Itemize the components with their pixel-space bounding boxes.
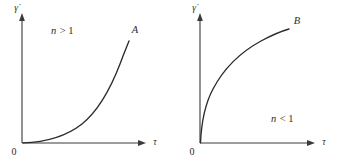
- y-axis-arrowhead-left: [19, 13, 25, 21]
- condition-variable-right: n: [271, 113, 276, 124]
- origin-label-right: 0: [190, 146, 195, 157]
- figure-root: γ̇ τ 0 A n> 1 γ̇ τ: [0, 0, 338, 165]
- plot-panel-right: γ̇ τ 0 B n< 1: [169, 0, 338, 165]
- y-axis-arrowhead-right: [197, 13, 203, 21]
- condition-variable-left: n: [51, 25, 56, 36]
- x-axis-label-right: τ: [322, 137, 326, 147]
- plot-panel-left: γ̇ τ 0 A n> 1: [0, 0, 169, 165]
- curve-A-path: [23, 41, 129, 143]
- condition-label-right: n< 1: [271, 113, 294, 124]
- origin-label-left: 0: [12, 146, 17, 157]
- condition-rest-left: > 1: [60, 25, 74, 36]
- x-axis-arrowhead-left: [138, 140, 146, 146]
- plot-right-svg: γ̇ τ 0 B n< 1: [169, 0, 338, 165]
- x-axis-arrowhead-right: [307, 140, 315, 146]
- plot-left-svg: γ̇ τ 0 A n> 1: [0, 0, 169, 165]
- curve-label-B: B: [294, 15, 301, 26]
- y-axis-label-left: γ̇: [14, 3, 21, 13]
- curve-B-path: [201, 29, 290, 143]
- condition-label-left: n> 1: [51, 25, 74, 36]
- y-axis-label-right: γ̇: [192, 3, 199, 13]
- curve-label-A: A: [131, 24, 139, 35]
- x-axis-label-left: τ: [153, 137, 157, 147]
- condition-rest-right: < 1: [280, 113, 294, 124]
